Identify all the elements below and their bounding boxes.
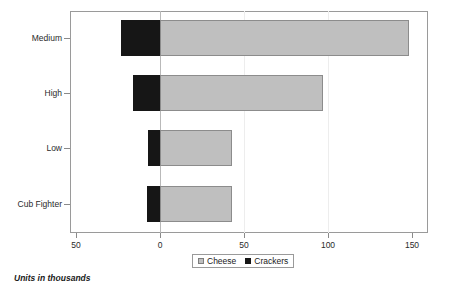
- xtick-mark-neg50: [76, 233, 77, 238]
- xtick-mark-50: [244, 233, 245, 238]
- xtick-mark-100: [328, 233, 329, 238]
- ytick-mark-cub-fighter: [64, 204, 70, 205]
- ytick-label-low: Low: [0, 143, 62, 153]
- bar-cheese-cub-fighter: [160, 186, 232, 222]
- ytick-label-medium: Medium: [0, 33, 62, 43]
- bar-crackers-high: [133, 75, 160, 111]
- bar-cheese-low: [160, 130, 232, 166]
- bar-chart: Medium High Low Cub Fighter 50 0 50 100 …: [0, 0, 452, 296]
- xtick-label-50: 50: [224, 240, 264, 250]
- xtick-mark-150: [412, 233, 413, 238]
- legend-swatch-cheese-icon: [198, 258, 204, 264]
- chart-footnote: Units in thousands: [14, 273, 91, 283]
- bar-crackers-medium: [121, 20, 160, 56]
- bar-cheese-medium: [160, 20, 409, 56]
- legend-entry-cheese: Cheese: [198, 256, 236, 266]
- legend-label-cheese: Cheese: [207, 256, 236, 266]
- bar-crackers-cub-fighter: [147, 186, 160, 222]
- chart-legend: Cheese Crackers: [192, 254, 294, 268]
- ytick-mark-low: [64, 148, 70, 149]
- legend-swatch-crackers-icon: [245, 258, 251, 264]
- legend-label-crackers: Crackers: [254, 256, 288, 266]
- bar-crackers-low: [148, 130, 160, 166]
- legend-entry-crackers: Crackers: [245, 256, 288, 266]
- xtick-mark-0: [160, 233, 161, 238]
- ytick-label-cub-fighter: Cub Fighter: [0, 199, 62, 209]
- xtick-label-0: 0: [140, 240, 180, 250]
- xtick-label-100: 100: [308, 240, 348, 250]
- ytick-mark-medium: [64, 38, 70, 39]
- xtick-label-neg50: 50: [56, 240, 96, 250]
- ytick-label-high: High: [0, 88, 62, 98]
- ytick-mark-high: [64, 93, 70, 94]
- bar-cheese-high: [160, 75, 323, 111]
- xtick-label-150: 150: [392, 240, 432, 250]
